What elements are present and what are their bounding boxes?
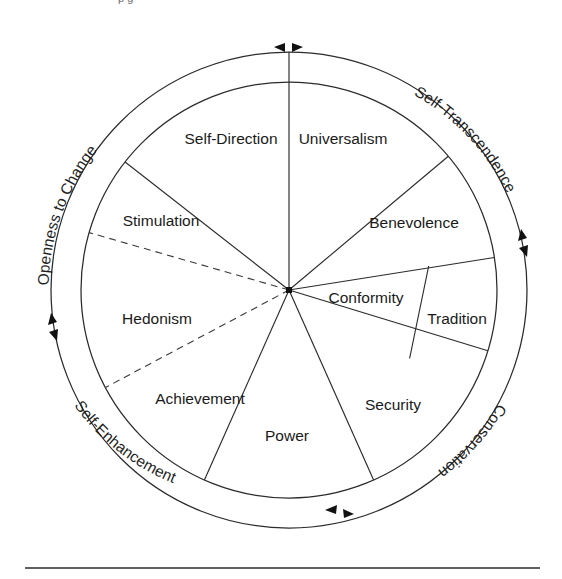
spoke-power-achievement xyxy=(204,290,289,480)
value-label-security: Security xyxy=(365,396,421,413)
spoke-security-power xyxy=(289,290,374,480)
value-label-benevolence: Benevolence xyxy=(369,214,459,231)
value-label-achievement: Achievement xyxy=(155,390,245,407)
value-label-power: Power xyxy=(265,427,309,444)
figure-root: p g xyxy=(0,0,562,579)
value-label-stimulation: Stimulation xyxy=(123,212,200,229)
dimension-label-conservation: Conservation xyxy=(436,402,510,482)
arrow-top xyxy=(274,43,303,52)
arrow-left xyxy=(48,313,58,341)
spoke-achievement-hedonism-dashed xyxy=(105,290,289,388)
value-label-universalism: Universalism xyxy=(299,130,388,147)
value-label-hedonism: Hedonism xyxy=(122,310,192,327)
arrow-bottom xyxy=(325,505,354,518)
value-label-conformity: Conformity xyxy=(329,289,404,306)
dimension-label-self-enhancement: Self-Enhancement xyxy=(72,397,179,486)
dimension-label-self-transcendence: Self-Transcendence xyxy=(412,83,519,195)
center-point xyxy=(286,287,292,293)
value-label-tradition: Tradition xyxy=(427,310,487,327)
spoke-benevolence-conformity xyxy=(289,258,494,291)
spoke-tradition-divider xyxy=(410,266,429,359)
value-circumplex-diagram: Self-Direction Universalism Benevolence … xyxy=(0,0,562,579)
dimension-label-openness-to-change: Openness to Change xyxy=(34,142,100,286)
spoke-hedonism-stimulation-dashed xyxy=(89,233,289,290)
value-label-self-direction: Self-Direction xyxy=(184,130,277,147)
